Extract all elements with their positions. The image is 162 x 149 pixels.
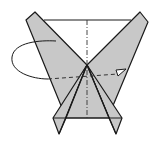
origami-diagram <box>0 0 162 149</box>
origami-diagram-svg <box>0 0 162 149</box>
